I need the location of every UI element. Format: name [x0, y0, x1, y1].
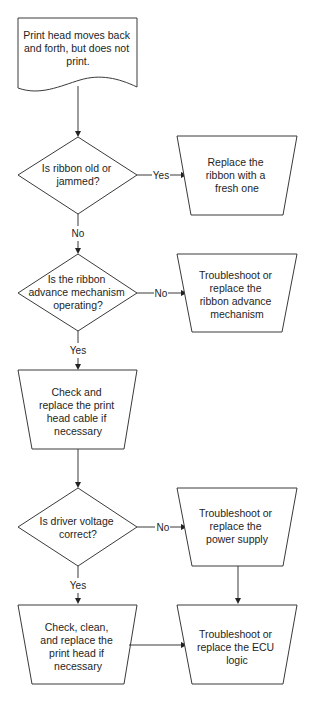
- edge-q1-a1: Yes: [137, 170, 187, 181]
- node-text-line: head cable if: [47, 412, 107, 424]
- node-text-line: Replace the: [208, 156, 264, 168]
- arrowhead-icon: [75, 482, 81, 488]
- edge-label-yes: Yes: [70, 345, 86, 356]
- edge-q2-a3: Yes: [70, 331, 86, 370]
- node-text-line: mechanism: [210, 308, 264, 320]
- arrowhead-icon: [75, 131, 81, 137]
- node-text-line: replace the: [210, 282, 262, 294]
- node-text-line: operating?: [53, 299, 103, 311]
- decision-shape: [18, 488, 137, 566]
- node-text-line: replace the print: [39, 399, 114, 411]
- node-a1: Replace the ribbon with a fresh one: [177, 136, 297, 215]
- edge-q3-a5: Yes: [70, 566, 86, 604]
- node-text-line: and forth, but does not: [24, 42, 129, 54]
- edge-q3-a4: No: [137, 522, 187, 533]
- node-text-line: Print head moves back: [23, 29, 131, 41]
- edge-q1-q2: No: [72, 214, 85, 254]
- node-text-line: necessary: [54, 425, 103, 437]
- node-a6: Troubleshoot or replace the ECU logic: [177, 605, 297, 684]
- node-text-line: and replace the: [40, 634, 113, 646]
- node-text-line: Check and: [51, 386, 101, 398]
- node-text-line: Troubleshoot or: [199, 628, 273, 640]
- node-text-line: logic: [226, 654, 248, 666]
- edge-label-yes: Yes: [70, 580, 86, 591]
- node-a5: Check, clean, and replace the print head…: [18, 605, 137, 684]
- node-text-line: ribbon advance: [200, 295, 272, 307]
- edge-a5-a6: [129, 642, 187, 648]
- node-a2: Troubleshoot or replace the ribbon advan…: [177, 254, 297, 332]
- node-text-line: advance mechanism: [28, 286, 125, 298]
- edge-label-no: No: [157, 522, 170, 533]
- edge-label-no: No: [72, 228, 85, 239]
- node-text-line: necessary: [54, 660, 103, 672]
- node-text-line: replace the ECU: [197, 641, 274, 653]
- node-text-line: Troubleshoot or: [199, 269, 273, 281]
- node-text-line: print head if: [49, 647, 104, 659]
- node-a4: Troubleshoot or replace the power supply: [177, 488, 297, 566]
- arrowhead-icon: [75, 248, 81, 254]
- node-text-line: Check, clean,: [45, 621, 109, 633]
- node-text-line: Is ribbon old or: [42, 162, 112, 174]
- node-a4-text: Troubleshoot or replace the power supply: [199, 507, 275, 545]
- node-q3: Is driver voltage correct?: [18, 488, 137, 566]
- node-text-line: fresh one: [215, 182, 259, 194]
- node-text-line: correct?: [59, 528, 97, 540]
- edge-a3-q3: [75, 449, 81, 488]
- node-text-line: print.: [66, 55, 89, 67]
- node-a1-text: Replace the ribbon with a fresh one: [206, 156, 268, 194]
- arrowhead-icon: [75, 598, 81, 604]
- node-a3: Check and replace the print head cable i…: [18, 370, 137, 449]
- edge-label-no: No: [155, 288, 168, 299]
- edge-label-yes: Yes: [153, 170, 169, 181]
- node-a2-text: Troubleshoot or replace the ribbon advan…: [199, 269, 275, 320]
- node-text-line: Is driver voltage: [39, 515, 113, 527]
- node-q2: Is the ribbon advance mechanism operatin…: [18, 254, 137, 331]
- arrowhead-icon: [75, 364, 81, 370]
- node-q1: Is ribbon old or jammed?: [18, 137, 137, 214]
- edge-q2-a2: No: [137, 288, 187, 299]
- node-start: Print head moves back and forth, but doe…: [18, 18, 137, 91]
- flowchart-canvas: Print head moves back and forth, but doe…: [0, 0, 319, 701]
- node-text-line: power supply: [206, 533, 269, 545]
- arrowhead-icon: [235, 598, 241, 604]
- node-text-line: Is the ribbon: [48, 273, 106, 285]
- node-text-line: ribbon with a: [206, 169, 266, 181]
- node-text-line: replace the: [210, 520, 262, 532]
- edge-a4-a6: [235, 566, 241, 604]
- node-text-line: Troubleshoot or: [199, 507, 273, 519]
- node-text-line: jammed?: [55, 175, 99, 187]
- edge-start-q1: [75, 86, 81, 137]
